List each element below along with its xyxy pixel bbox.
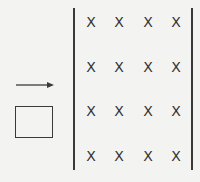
field-region-right-boundary [191, 8, 193, 170]
field-into-page-icon: X [112, 14, 126, 30]
field-into-page-icon: X [169, 148, 183, 164]
field-into-page-icon: X [169, 14, 183, 30]
field-into-page-icon: X [169, 103, 183, 119]
conducting-loop [15, 106, 53, 138]
field-into-page-icon: X [141, 148, 155, 164]
field-into-page-icon: X [141, 59, 155, 75]
field-into-page-icon: X [112, 59, 126, 75]
field-into-page-icon: X [112, 148, 126, 164]
field-into-page-icon: X [84, 59, 98, 75]
field-into-page-icon: X [84, 14, 98, 30]
field-into-page-icon: X [141, 103, 155, 119]
field-into-page-icon: X [169, 59, 183, 75]
field-into-page-icon: X [141, 14, 155, 30]
field-into-page-icon: X [84, 103, 98, 119]
velocity-arrow-icon [10, 79, 70, 91]
field-into-page-icon: X [112, 103, 126, 119]
field-region-left-boundary [73, 8, 75, 170]
field-into-page-icon: X [84, 148, 98, 164]
